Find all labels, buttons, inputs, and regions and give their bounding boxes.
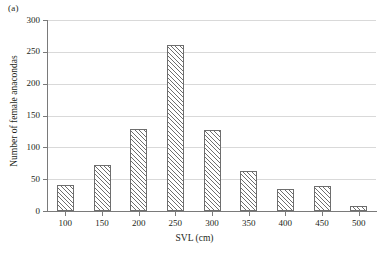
x-tick-mark	[175, 212, 176, 216]
x-tick-label: 150	[82, 218, 122, 228]
bar	[240, 171, 257, 211]
bar	[277, 189, 294, 211]
y-tick-label: 0	[14, 207, 40, 216]
bar	[94, 165, 111, 211]
bars-layer	[47, 20, 377, 211]
x-tick-label: 200	[119, 218, 159, 228]
bar	[130, 129, 147, 211]
x-axis-title: SVL (cm)	[0, 233, 389, 243]
x-tick-label: 100	[45, 218, 85, 228]
y-tick-mark	[43, 211, 47, 212]
x-tick-mark	[139, 212, 140, 216]
x-tick-mark	[65, 212, 66, 216]
x-tick-label: 300	[192, 218, 232, 228]
x-tick-mark	[359, 212, 360, 216]
x-tick-label: 400	[265, 218, 305, 228]
x-tick-mark	[249, 212, 250, 216]
x-tick-label: 250	[155, 218, 195, 228]
bar	[167, 45, 184, 211]
bar	[314, 186, 331, 211]
y-axis-title: Number of female anacondas	[9, 31, 19, 191]
x-tick-mark	[322, 212, 323, 216]
x-tick-mark	[285, 212, 286, 216]
bar	[204, 130, 221, 211]
figure-panel: (a) 050100150200250300 10015020025030035…	[0, 0, 389, 255]
x-tick-label: 500	[339, 218, 379, 228]
x-tick-mark	[102, 212, 103, 216]
x-tick-label: 350	[229, 218, 269, 228]
bar	[350, 206, 367, 211]
bar	[57, 185, 74, 211]
x-tick-mark	[212, 212, 213, 216]
y-tick-label: 300	[14, 16, 40, 25]
x-tick-label: 450	[302, 218, 342, 228]
